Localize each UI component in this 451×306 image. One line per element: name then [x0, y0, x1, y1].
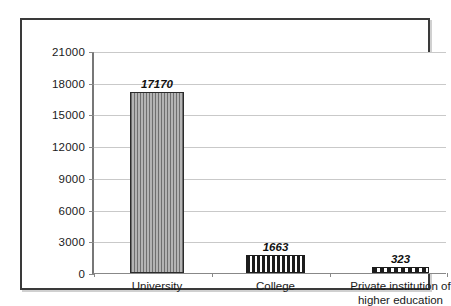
- chart-frame: 21000 18000 15000 12000 9000 6000 3000 0…: [20, 18, 430, 290]
- xtick-label-college: College: [256, 279, 295, 293]
- plot-area: 21000 18000 15000 12000 9000 6000 3000 0…: [92, 52, 446, 274]
- ytick-label-9000: 9000: [59, 173, 85, 185]
- xtick-label-private-institution: Private institution of higher education: [350, 279, 450, 306]
- bar-college[interactable]: 1663 College: [246, 255, 305, 273]
- xtick-mark-2: [330, 273, 331, 277]
- ytick-mark-18000: [89, 84, 94, 85]
- ytick-label-18000: 18000: [52, 78, 85, 90]
- ytick-label-3000: 3000: [59, 236, 85, 248]
- bar-value-university: 17170: [141, 78, 173, 90]
- ytick-label-0: 0: [78, 268, 85, 280]
- gridline-21000: [94, 52, 446, 53]
- xtick-mark-start: [94, 273, 95, 277]
- xtick-mark-end: [447, 273, 448, 277]
- ytick-mark-12000: [89, 147, 94, 148]
- bar-value-private-institution: 323: [391, 253, 410, 265]
- ytick-label-6000: 6000: [59, 205, 85, 217]
- bar-value-college: 1663: [263, 241, 289, 253]
- ytick-label-15000: 15000: [52, 109, 85, 121]
- xtick-label-private-line2: higher education: [358, 294, 443, 306]
- ytick-mark-9000: [89, 179, 94, 180]
- ytick-mark-3000: [89, 242, 94, 243]
- xtick-mark-1: [212, 273, 213, 277]
- bar-private-institution[interactable]: 323 Private institution of higher educat…: [372, 267, 429, 273]
- ytick-mark-15000: [89, 115, 94, 116]
- xtick-label-university: University: [132, 279, 182, 293]
- xtick-label-private-line1: Private institution of: [350, 280, 450, 292]
- ytick-mark-21000: [89, 52, 94, 53]
- bar-university[interactable]: 17170 University: [130, 92, 184, 274]
- ytick-mark-6000: [89, 211, 94, 212]
- ytick-label-21000: 21000: [52, 46, 85, 58]
- ytick-label-12000: 12000: [52, 141, 85, 153]
